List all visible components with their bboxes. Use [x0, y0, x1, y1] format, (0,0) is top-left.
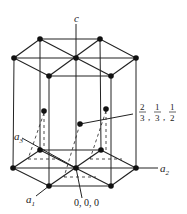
atom-top — [37, 36, 43, 42]
diagram-svg: c a2 a1 a3 0, 0, 0 2 3 , 1 3 , 1 2 — [0, 0, 187, 214]
a2-axis-label: a2 — [160, 162, 170, 177]
hcp-unit-cell-diagram: c a2 a1 a3 0, 0, 0 2 3 , 1 3 , 1 2 — [0, 0, 187, 214]
origin-leader — [76, 168, 82, 198]
svg-text:1: 1 — [155, 102, 160, 112]
atom-interior — [41, 108, 47, 114]
a1-axis-label: a1 — [26, 193, 35, 208]
atom-bottom — [133, 165, 139, 171]
svg-text:3: 3 — [140, 113, 145, 123]
interior-coordinate-label: 2 3 , 1 3 , 1 2 — [139, 102, 176, 123]
atom-top-center — [73, 55, 79, 61]
atom-top — [46, 73, 52, 79]
atom-origin — [73, 165, 79, 171]
atom-bottom — [37, 147, 43, 153]
atom-top — [11, 55, 17, 61]
atoms — [10, 36, 139, 189]
a3-axis-label: a3 — [14, 130, 24, 145]
atom-top — [133, 55, 139, 61]
atom-top — [108, 73, 114, 79]
vertical-edges — [13, 39, 136, 186]
atom-bottom — [98, 147, 104, 153]
svg-text:3: 3 — [155, 113, 160, 123]
origin-label: 0, 0, 0 — [74, 197, 99, 208]
interior-leader — [80, 114, 133, 124]
svg-text:,: , — [148, 112, 150, 122]
svg-text:2: 2 — [170, 113, 175, 123]
atom-bottom — [10, 165, 16, 171]
atom-interior — [103, 106, 109, 112]
svg-text:1: 1 — [170, 102, 175, 112]
atom-bottom — [46, 183, 52, 189]
c-axis-label: c — [74, 12, 79, 24]
atom-interior-labeled — [77, 121, 83, 127]
atom-top — [97, 36, 103, 42]
svg-text:2: 2 — [140, 102, 145, 112]
svg-text:,: , — [163, 112, 165, 122]
atom-bottom — [108, 183, 114, 189]
